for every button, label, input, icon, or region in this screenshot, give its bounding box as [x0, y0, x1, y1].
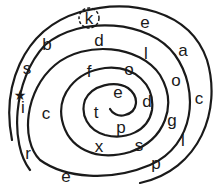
- spiral-letter: t: [94, 104, 99, 121]
- spiral-letter: c: [42, 105, 51, 122]
- spiral-letter: d: [94, 32, 103, 49]
- spiral-letter: e: [61, 168, 70, 185]
- spiral-letter: s: [23, 60, 32, 77]
- spiral-letter: d: [142, 93, 151, 110]
- spiral-letter: r: [25, 145, 31, 162]
- spiral-puzzle: ★ k e b d l a s f o o e i c t d c p g x …: [0, 0, 213, 185]
- spiral-letter: b: [42, 36, 51, 53]
- spiral-letter: g: [167, 112, 176, 129]
- spiral-letter: f: [87, 63, 92, 80]
- spiral-letter: o: [124, 61, 133, 78]
- spiral-letter: p: [116, 119, 125, 136]
- spiral-letter: e: [113, 84, 122, 101]
- spiral-letter: x: [95, 138, 104, 155]
- spiral-path: [9, 7, 211, 183]
- spiral-letter: k: [85, 10, 94, 27]
- spiral-letter: c: [195, 90, 204, 107]
- spiral-letter: i: [21, 99, 25, 116]
- spiral-letter: o: [171, 72, 180, 89]
- spiral-letter: p: [151, 155, 160, 172]
- spiral-letter: e: [140, 14, 149, 31]
- spiral-letter: s: [135, 137, 144, 154]
- spiral-letter: l: [181, 132, 185, 149]
- spiral-lines: [0, 0, 213, 185]
- spiral-letter: a: [178, 42, 187, 59]
- spiral-letter: l: [144, 45, 148, 62]
